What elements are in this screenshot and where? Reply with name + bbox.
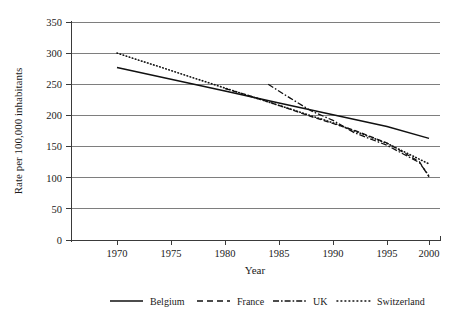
x-tick-label-1975: 1975 — [161, 248, 182, 259]
gridlines — [71, 22, 440, 240]
x-tick-labels: 1970 1975 1980 1985 1990 1995 2000 — [107, 248, 440, 259]
y-tick-label-200: 200 — [46, 110, 62, 121]
legend-label-uk: UK — [313, 296, 328, 307]
x-axis-title: Year — [245, 264, 266, 276]
y-tick-label-50: 50 — [52, 204, 63, 215]
legend-label-switzerland: Switzerland — [377, 296, 425, 307]
y-tick-label-300: 300 — [46, 48, 62, 59]
series-line-france — [225, 89, 429, 177]
legend-label-france: France — [237, 296, 265, 307]
chart-figure: 350 300 250 200 150 100 50 0 1970 1975 1… — [0, 0, 453, 321]
y-axis-title: Rate per 100,000 inhabitants — [12, 68, 24, 194]
y-tick-marks — [66, 22, 71, 240]
x-tick-marks — [117, 240, 429, 245]
line-chart: 350 300 250 200 150 100 50 0 1970 1975 1… — [0, 0, 453, 321]
series-line-uk — [268, 84, 429, 176]
x-tick-label-1995: 1995 — [377, 248, 398, 259]
x-tick-label-1970: 1970 — [107, 248, 128, 259]
x-tick-label-2000: 2000 — [419, 248, 440, 259]
y-tick-label-0: 0 — [57, 235, 62, 246]
x-tick-label-1990: 1990 — [323, 248, 344, 259]
series-line-switzerland — [117, 53, 429, 164]
y-tick-label-350: 350 — [46, 17, 62, 28]
legend-label-belgium: Belgium — [150, 296, 185, 307]
y-tick-label-250: 250 — [46, 79, 62, 90]
y-tick-label-100: 100 — [46, 173, 62, 184]
x-tick-label-1980: 1980 — [215, 248, 236, 259]
y-tick-label-150: 150 — [46, 141, 62, 152]
x-tick-label-1985: 1985 — [269, 248, 290, 259]
chart-legend: Belgium France UK Switzerland — [110, 296, 425, 307]
y-tick-labels: 350 300 250 200 150 100 50 0 — [46, 17, 62, 246]
